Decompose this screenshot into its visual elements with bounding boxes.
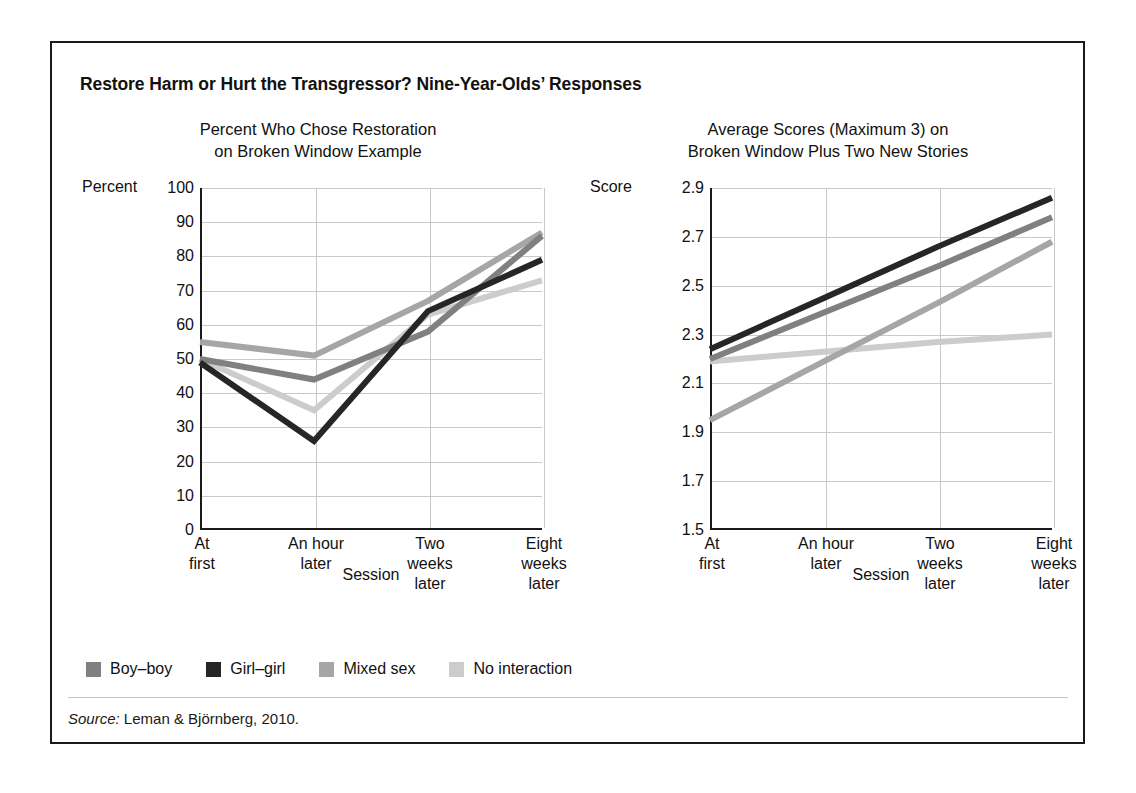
plot-area-right: 1.51.71.92.12.32.52.72.9AtfirstAn hourla… <box>710 188 1052 530</box>
y-tick-label: 50 <box>176 350 194 368</box>
legend-label: No interaction <box>473 660 572 678</box>
y-tick-label: 20 <box>176 453 194 471</box>
legend-item: No interaction <box>449 660 572 678</box>
chart-title-left-line2: on Broken Window Example <box>68 140 568 162</box>
figure-title: Restore Harm or Hurt the Transgressor? N… <box>80 74 642 95</box>
chart-panel-right: Average Scores (Maximum 3) on Broken Win… <box>578 110 1078 650</box>
legend-label: Mixed sex <box>343 660 415 678</box>
y-tick-label: 2.7 <box>682 228 704 246</box>
y-tick-label: 70 <box>176 282 194 300</box>
legend-swatch <box>206 662 221 677</box>
legend-swatch <box>449 662 464 677</box>
x-tick-label: Twoweekslater <box>382 534 478 594</box>
source-text: Leman & Björnberg, 2010. <box>120 710 299 727</box>
legend-label: Boy–boy <box>110 660 172 678</box>
y-tick-label: 2.1 <box>682 374 704 392</box>
chart-panel-left: Percent Who Chose Restoration on Broken … <box>68 110 568 650</box>
y-tick-label: 1.7 <box>682 472 704 490</box>
y-axis-label-right: Score <box>590 178 632 196</box>
chart-title-right: Average Scores (Maximum 3) on Broken Win… <box>578 118 1078 162</box>
x-axis-label-right: Session <box>710 566 1052 584</box>
y-tick-label: 10 <box>176 487 194 505</box>
source-note: Source: Leman & Björnberg, 2010. <box>68 710 299 727</box>
x-axis-label-left: Session <box>200 566 542 584</box>
gridline-vertical <box>544 188 545 528</box>
y-tick-label: 2.3 <box>682 326 704 344</box>
y-tick-label: 40 <box>176 384 194 402</box>
series-lines-left <box>200 188 542 530</box>
y-tick-label: 2.5 <box>682 277 704 295</box>
source-keyword: Source: <box>68 710 120 727</box>
source-divider <box>68 697 1068 698</box>
y-tick-label: 30 <box>176 418 194 436</box>
y-tick-label: 60 <box>176 316 194 334</box>
legend-label: Girl–girl <box>230 660 285 678</box>
y-tick-label: 1.9 <box>682 423 704 441</box>
gridline-vertical <box>1054 188 1055 528</box>
legend-item: Boy–boy <box>86 660 172 678</box>
chart-title-left: Percent Who Chose Restoration on Broken … <box>68 118 568 162</box>
legend-item: Mixed sex <box>319 660 415 678</box>
y-tick-label: 100 <box>167 179 194 197</box>
series-line <box>200 236 542 380</box>
legend-item: Girl–girl <box>206 660 285 678</box>
x-tick-label: Twoweekslater <box>892 534 988 594</box>
y-tick-label: 80 <box>176 247 194 265</box>
chart-title-right-line2: Broken Window Plus Two New Stories <box>578 140 1078 162</box>
x-tick-label: Eightweekslater <box>1006 534 1102 594</box>
figure-page: Restore Harm or Hurt the Transgressor? N… <box>0 0 1136 793</box>
chart-title-right-line1: Average Scores (Maximum 3) on <box>708 120 949 138</box>
series-lines-right <box>710 188 1052 530</box>
series-line <box>710 198 1052 349</box>
y-tick-label: 90 <box>176 213 194 231</box>
y-axis-label-left: Percent <box>82 178 137 196</box>
series-line <box>710 242 1052 420</box>
plot-area-left: 0102030405060708090100AtfirstAn hourlate… <box>200 188 542 530</box>
chart-title-left-line1: Percent Who Chose Restoration <box>200 120 437 138</box>
legend-swatch <box>86 662 101 677</box>
legend: Boy–boyGirl–girlMixed sexNo interaction <box>86 660 572 678</box>
legend-swatch <box>319 662 334 677</box>
y-tick-label: 2.9 <box>682 179 704 197</box>
